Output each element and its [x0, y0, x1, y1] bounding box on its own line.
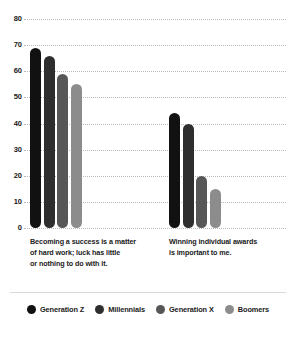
bar-group-2 [169, 19, 221, 228]
category-labels: Becoming a success is a matterof hard wo… [24, 236, 286, 280]
bar-boomers-group2 [210, 189, 221, 228]
y-axis-tick-labels: 80706050403020100 [0, 19, 22, 228]
y-tick-label-50: 50 [0, 94, 22, 102]
legend-label: Boomers [238, 305, 269, 314]
category-label-line: Winning individual awards [169, 236, 287, 247]
chart-legend: Generation ZMillennialsGeneration XBoome… [0, 305, 296, 314]
legend-divider [10, 292, 286, 293]
y-tick-label-80: 80 [0, 15, 22, 23]
legend-label: Millennials [108, 305, 145, 314]
legend-label: Generation X [169, 305, 214, 314]
y-tick-label-70: 70 [0, 41, 22, 49]
category-label-line: of hard work; luck has little [30, 247, 148, 258]
legend-item-boomers[interactable]: Boomers [225, 305, 269, 314]
legend-dot-icon [27, 305, 36, 314]
gridline-0 [24, 228, 286, 229]
y-tick-label-10: 10 [0, 198, 22, 206]
category-label-2: Winning individual awardsis important to… [169, 236, 287, 258]
bar-generation-x-group2 [196, 176, 207, 228]
category-label-1: Becoming a success is a matterof hard wo… [30, 236, 148, 269]
bar-generation-z-group1 [30, 48, 41, 228]
y-tick-label-60: 60 [0, 68, 22, 76]
legend-dot-icon [156, 305, 165, 314]
y-tick-label-0: 0 [0, 224, 22, 232]
legend-item-generation-z[interactable]: Generation Z [27, 305, 84, 314]
y-tick-label-20: 20 [0, 172, 22, 180]
category-label-line: Becoming a success is a matter [30, 236, 148, 247]
bar-chart: 80706050403020100 Becoming a success is … [0, 0, 296, 351]
bar-groups [24, 19, 286, 228]
bar-generation-x-group1 [57, 74, 68, 228]
legend-item-generation-x[interactable]: Generation X [156, 305, 214, 314]
y-tick-label-30: 30 [0, 146, 22, 154]
plot-area [24, 19, 286, 228]
legend-dot-icon [225, 305, 234, 314]
category-label-line: is important to me. [169, 247, 287, 258]
legend-item-millennials[interactable]: Millennials [95, 305, 145, 314]
bar-boomers-group1 [71, 84, 82, 228]
bar-millennials-group2 [183, 124, 194, 229]
y-tick-label-40: 40 [0, 120, 22, 128]
bar-millennials-group1 [44, 56, 55, 228]
category-label-line: or nothing to do with it. [30, 258, 148, 269]
bar-group-1 [30, 19, 82, 228]
legend-dot-icon [95, 305, 104, 314]
bar-generation-z-group2 [169, 113, 180, 228]
legend-label: Generation Z [40, 305, 84, 314]
